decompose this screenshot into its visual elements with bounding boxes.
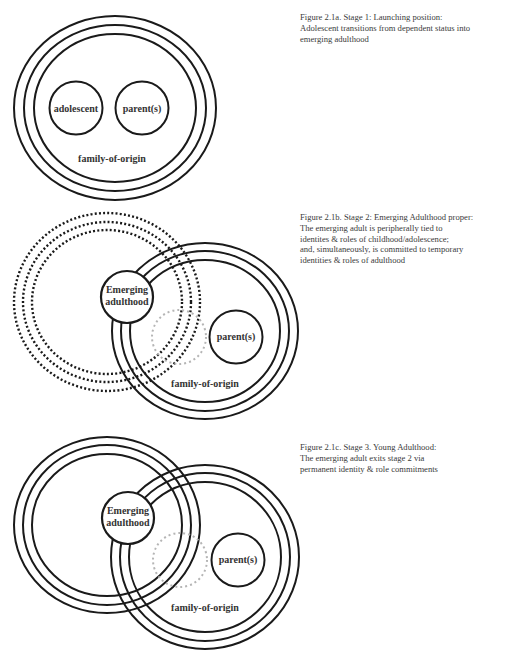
caption-line: emerging adulthood (300, 34, 505, 45)
parents-label: parent(s) (219, 554, 258, 566)
family-of-origin-label: family-of-origin (171, 378, 239, 389)
figure-2-1a-diagram: adolescent parent(s) family-of-origin (14, 16, 216, 200)
caption-line: Figure 2.1c. Stage 3. Young Adulthood: (300, 442, 505, 453)
caption-line: Figure 2.1b. Stage 2: Emerging Adulthood… (300, 212, 505, 223)
figure-2-1c-caption: Figure 2.1c. Stage 3. Young Adulthood: T… (300, 442, 505, 474)
family-of-origin-label: family-of-origin (171, 602, 239, 613)
emerging-label-line2: adulthood (105, 296, 149, 307)
caption-line: permanent identity & role commitments (300, 464, 505, 475)
emerging-label-line1: Emerging (107, 505, 149, 516)
caption-line: Figure 2.1a. Stage 1: Launching position… (300, 12, 505, 23)
figure-2-1b-diagram: Emerging adulthood parent(s) family-of-o… (14, 213, 298, 419)
caption-line: The emerging adult is peripherally tied … (300, 223, 505, 234)
family-of-origin-label: family-of-origin (78, 153, 146, 164)
caption-line: and, simultaneously, is committed to tem… (300, 244, 505, 255)
figure-2-1b-caption: Figure 2.1b. Stage 2: Emerging Adulthood… (300, 212, 505, 266)
parents-label: parent(s) (217, 331, 256, 343)
figure-2-1a-caption: Figure 2.1a. Stage 1: Launching position… (300, 12, 505, 44)
emerging-label-line1: Emerging (106, 284, 148, 295)
former-adolescent-dotted-circle (152, 310, 206, 364)
family-of-origin-rings (111, 465, 299, 649)
caption-line: identites & roles of childhood/adolescen… (300, 234, 505, 245)
caption-line: Adolescent transitions from dependent st… (300, 23, 505, 34)
adolescent-label: adolescent (54, 103, 99, 114)
caption-line: identities & roles of adulthood (300, 255, 505, 266)
caption-line: The emerging adult exits stage 2 via (300, 453, 505, 464)
family-of-origin-rings (112, 243, 298, 419)
emerging-label-line2: adulthood (106, 517, 150, 528)
diagrams-canvas: adolescent parent(s) family-of-origin Em… (0, 0, 505, 658)
figure-2-1c-diagram: Emerging adulthood parent(s) family-of-o… (14, 437, 299, 649)
parents-label: parent(s) (123, 103, 162, 115)
